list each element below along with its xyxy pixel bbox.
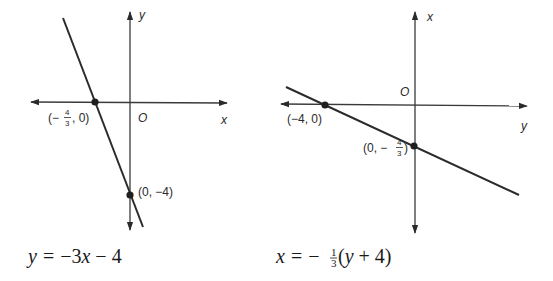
- right-y-intercept-label: (−4, 0): [287, 112, 322, 126]
- svg-text:3: 3: [397, 149, 402, 158]
- right-graph-line: [286, 87, 519, 195]
- svg-text:, 0): , 0): [72, 111, 89, 125]
- right-x-intercept-point: [410, 142, 417, 149]
- left-x-axis-label: x: [220, 113, 228, 127]
- svg-text:3: 3: [65, 119, 70, 128]
- left-y-intercept-point: [126, 191, 133, 198]
- left-x-intercept-label: (− 4 3 , 0): [48, 108, 89, 128]
- right-horizontal-axis-label: y: [520, 119, 528, 133]
- right-horizontal-axis: [281, 104, 527, 106]
- svg-text:(y+ 4): (y+ 4): [338, 245, 392, 268]
- right-y-intercept-point: [321, 101, 328, 108]
- right-vertical-axis-label: x: [426, 10, 434, 24]
- svg-text:4: 4: [65, 108, 70, 117]
- svg-text:(−: (−: [48, 111, 59, 125]
- left-y-intercept-label: (0, −4): [138, 185, 173, 199]
- svg-text:): ): [404, 141, 408, 155]
- left-origin-label: O: [138, 111, 147, 125]
- graphs-canvas: y x O (− 4 3 , 0) (0, −4) y=−3x−4 x y O …: [0, 0, 553, 281]
- svg-text:x=−: x=−: [275, 245, 319, 267]
- left-x-axis: [31, 102, 227, 103]
- right-origin-label: O: [400, 85, 409, 99]
- left-x-intercept-point: [91, 98, 98, 105]
- left-y-axis-label: y: [138, 8, 146, 22]
- left-equation: y=−3x−4: [26, 245, 122, 268]
- right-graph: x y O (−4, 0) (0, − 4 3 ) x=− 1 3 (y+ 4): [275, 10, 528, 269]
- svg-text:y=−3x−4: y=−3x−4: [26, 245, 122, 268]
- svg-text:(0, −: (0, −: [363, 141, 387, 155]
- right-equation: x=− 1 3 (y+ 4): [275, 245, 392, 269]
- left-graph: y x O (− 4 3 , 0) (0, −4) y=−3x−4: [26, 8, 228, 268]
- right-x-intercept-label: (0, − 4 3 ): [363, 138, 408, 158]
- svg-text:4: 4: [397, 138, 402, 147]
- svg-text:3: 3: [331, 257, 337, 269]
